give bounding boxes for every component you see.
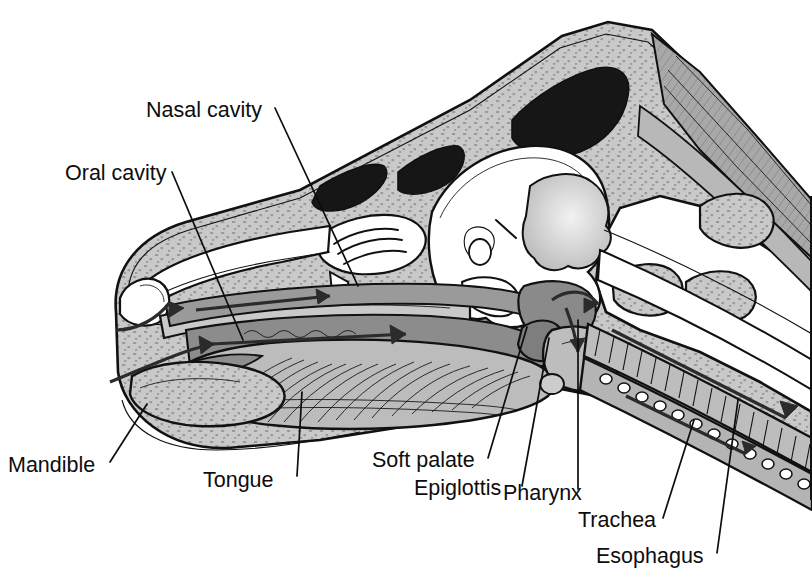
label-tongue: Tongue xyxy=(203,468,274,492)
label-trachea: Trachea xyxy=(578,508,656,532)
pituitary-gland xyxy=(469,239,491,265)
label-mandible: Mandible xyxy=(8,453,95,477)
vertebra-dorsal-process xyxy=(700,194,774,248)
label-pharynx: Pharynx xyxy=(503,481,582,505)
label-epiglottis: Epiglottis xyxy=(414,476,501,500)
label-soft-palate: Soft palate xyxy=(372,448,475,472)
cerebellum xyxy=(523,174,611,270)
figure-canvas: Nasal cavityOral cavityMandibleTongueSof… xyxy=(0,0,812,583)
label-oral-cavity: Oral cavity xyxy=(65,161,167,185)
label-esophagus: Esophagus xyxy=(596,544,704,568)
cricoid-cartilage xyxy=(540,374,564,394)
label-nasal-cavity: Nasal cavity xyxy=(146,98,262,122)
anatomy-diagram: Nasal cavityOral cavityMandibleTongueSof… xyxy=(0,0,812,583)
mandible-body xyxy=(130,362,285,426)
